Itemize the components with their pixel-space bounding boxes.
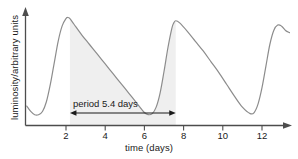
x-axis-arrowhead — [283, 122, 292, 129]
period-annotation-label: period 5.4 days — [73, 98, 138, 109]
x-tick-label: 6 — [134, 130, 154, 141]
y-axis-title: luminosity/arbitrary units — [9, 8, 20, 128]
x-tick-label: 8 — [174, 130, 194, 141]
period-shading-region — [70, 19, 176, 126]
x-tick-label: 12 — [252, 130, 272, 141]
x-tick-label: 4 — [95, 130, 115, 141]
y-axis-arrowhead — [22, 7, 29, 16]
x-tick-label: 10 — [213, 130, 233, 141]
luminosity-curve — [27, 17, 290, 115]
x-axis-title: time (days) — [0, 142, 298, 153]
luminosity-time-chart: luminosity/arbitrary units time (days) p… — [0, 0, 298, 159]
x-tick-label: 2 — [56, 130, 76, 141]
